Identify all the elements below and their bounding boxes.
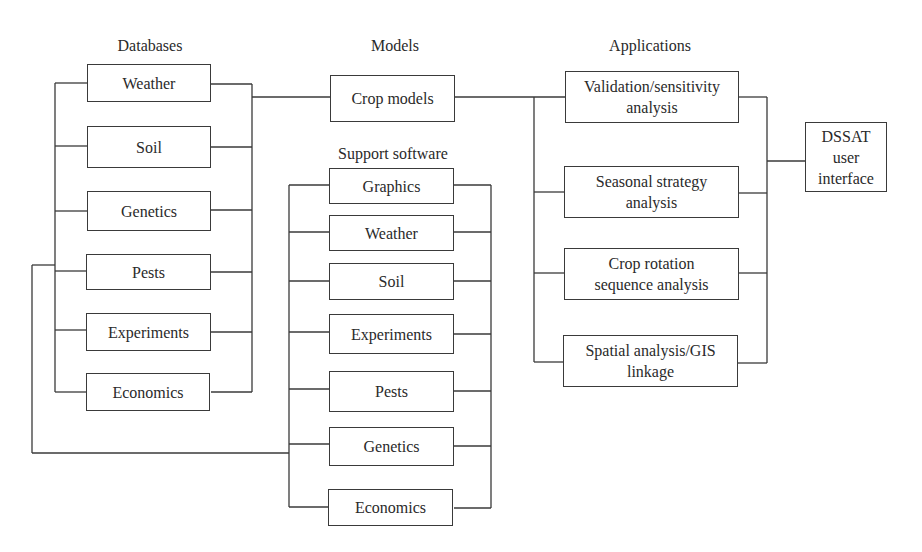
dssat-user-interface-box: DSSAT user interface: [805, 122, 887, 192]
support-software-header: Support software: [318, 145, 468, 163]
support-box-graphics: Graphics: [329, 168, 454, 204]
crop-models-box: Crop models: [330, 75, 455, 122]
database-box-soil: Soil: [87, 126, 211, 168]
application-box-crop-rotation: Crop rotation sequence analysis: [564, 248, 739, 300]
database-box-weather: Weather: [87, 64, 211, 102]
database-box-genetics: Genetics: [87, 191, 211, 231]
support-box-economics: Economics: [328, 489, 453, 526]
database-box-pests: Pests: [86, 254, 211, 290]
databases-header: Databases: [100, 37, 200, 55]
support-box-pests: Pests: [329, 371, 454, 412]
application-box-validation: Validation/sensitivity analysis: [565, 71, 739, 123]
support-box-soil: Soil: [329, 263, 454, 300]
support-box-genetics: Genetics: [329, 427, 454, 466]
models-header: Models: [340, 37, 450, 55]
application-box-seasonal-strategy: Seasonal strategy analysis: [564, 166, 739, 218]
database-box-economics: Economics: [86, 373, 210, 411]
support-box-weather: Weather: [329, 215, 454, 251]
application-box-spatial-gis: Spatial analysis/GIS linkage: [563, 335, 738, 387]
applications-header: Applications: [590, 37, 710, 55]
support-box-experiments: Experiments: [329, 314, 454, 354]
database-box-experiments: Experiments: [86, 313, 211, 351]
